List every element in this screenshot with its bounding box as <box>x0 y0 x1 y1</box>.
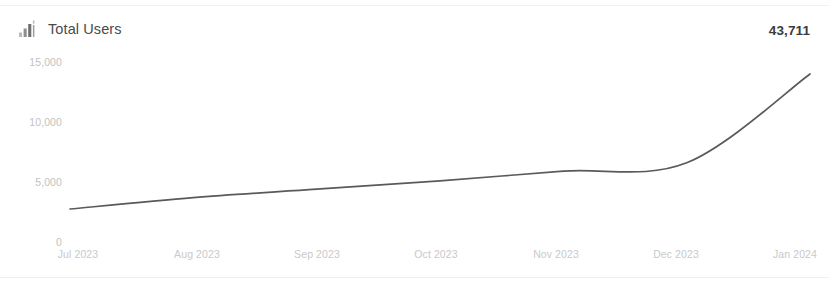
bar-chart-icon <box>19 20 39 38</box>
card-bottom-divider <box>0 277 829 278</box>
card-top-divider <box>0 5 829 6</box>
card-header: Total Users 43,711 <box>0 14 829 44</box>
total-users-card: Total Users 43,711 15,000 10,000 5,000 0… <box>0 0 829 286</box>
chart-line-series <box>0 44 829 286</box>
chart-plot-area: 15,000 10,000 5,000 0 Jul 2023 Aug 2023 … <box>0 44 829 286</box>
metric-value: 43,711 <box>769 21 810 40</box>
page-title: Total Users <box>48 19 122 39</box>
